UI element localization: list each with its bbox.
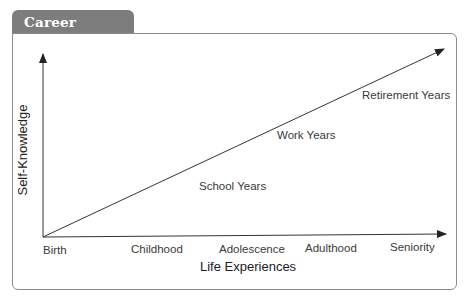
stage-label-work: Work Years xyxy=(277,129,336,141)
x-tick-adolescence: Adolescence xyxy=(219,243,285,255)
x-tick-adulthood: Adulthood xyxy=(305,242,357,254)
x-tick-seniority: Seniority xyxy=(390,241,435,253)
x-tick-birth: Birth xyxy=(43,244,67,256)
x-tick-childhood: Childhood xyxy=(131,243,183,255)
y-axis-title: Self-Knowledge xyxy=(15,104,30,195)
x-axis-line xyxy=(43,234,446,237)
stage-label-retirement: Retirement Years xyxy=(362,89,450,101)
diagram-canvas xyxy=(0,0,469,302)
x-axis-title: Life Experiences xyxy=(200,259,296,274)
growth-line xyxy=(43,49,444,237)
stage-label-school: School Years xyxy=(199,180,266,192)
